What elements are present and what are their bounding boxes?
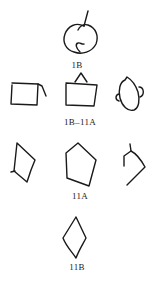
- shape-head-with-ear: [116, 77, 143, 110]
- label-11b: 11B: [66, 262, 88, 272]
- label-1b: 1B: [66, 60, 88, 70]
- shape-quadrilateral: [11, 143, 35, 182]
- shape-rectangle-with-triangle: [66, 73, 97, 106]
- shape-pentagon: [66, 143, 96, 186]
- shape-diamond: [63, 217, 86, 258]
- label-11a: 11A: [69, 191, 91, 201]
- shape-open-rectangle: [11, 83, 46, 105]
- diagram-canvas: 1B 1B–11A 11A 11B: [0, 0, 154, 285]
- label-1b-11a: 1B–11A: [60, 117, 100, 127]
- shape-1b-loop: [64, 11, 97, 53]
- shape-open-angle: [124, 144, 145, 185]
- diagram-drawings: [0, 0, 154, 285]
